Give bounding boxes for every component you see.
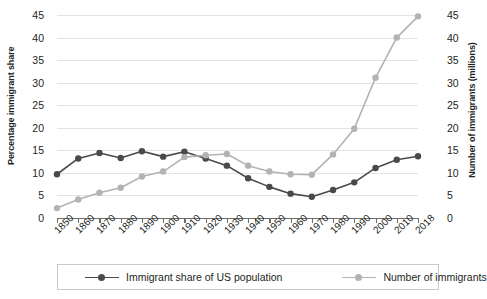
gridline bbox=[57, 173, 418, 174]
gridline bbox=[57, 150, 418, 151]
y-axis-right-tick-label: 5 bbox=[447, 190, 477, 200]
gridline bbox=[57, 15, 418, 16]
legend-entry-number-of-immigrants: Number of immigrants bbox=[342, 271, 486, 283]
gridline bbox=[57, 195, 418, 196]
legend-entry-immigrant-share: Immigrant share of US population bbox=[85, 271, 282, 283]
y-axis-left-tick-label: 35 bbox=[14, 55, 44, 65]
legend-label-number-of-immigrants: Number of immigrants bbox=[383, 271, 486, 283]
gridline bbox=[57, 83, 418, 84]
y-axis-left-tick-label: 45 bbox=[14, 10, 44, 20]
y-axis-right-tick-label: 40 bbox=[447, 33, 477, 43]
y-axis-left-tick-label: 15 bbox=[14, 145, 44, 155]
y-axis-left-tick-label: 40 bbox=[14, 33, 44, 43]
y-axis-right-tick-label: 20 bbox=[447, 123, 477, 133]
y-axis-left-tick-label: 5 bbox=[14, 190, 44, 200]
y-axis-left-tick-label: 10 bbox=[14, 168, 44, 178]
x-axis-tick-label: 1850 bbox=[52, 212, 76, 236]
y-axis-left-tick-label: 25 bbox=[14, 100, 44, 110]
plot-area bbox=[57, 15, 418, 218]
legend-swatch-number-of-immigrants bbox=[342, 272, 376, 282]
gridline bbox=[57, 60, 418, 61]
gridline bbox=[57, 38, 418, 39]
y-axis-right-tick-label: 15 bbox=[447, 145, 477, 155]
y-axis-right-tick-label: 35 bbox=[447, 55, 477, 65]
y-axis-right-tick-label: 45 bbox=[447, 10, 477, 20]
legend-dot-icon bbox=[98, 274, 105, 281]
y-axis-left-tick-label: 0 bbox=[14, 213, 44, 223]
legend-dot-icon bbox=[355, 274, 362, 281]
y-axis-right-tick-label: 30 bbox=[447, 78, 477, 88]
legend-label-immigrant-share: Immigrant share of US population bbox=[126, 271, 282, 283]
gridline bbox=[57, 128, 418, 129]
y-axis-left-tick-label: 30 bbox=[14, 78, 44, 88]
y-axis-right-tick-label: 10 bbox=[447, 168, 477, 178]
y-axis-right-tick-label: 0 bbox=[447, 213, 477, 223]
y-axis-left-tick-label: 20 bbox=[14, 123, 44, 133]
chart-legend: Immigrant share of US population Number … bbox=[57, 264, 439, 290]
gridline bbox=[57, 105, 418, 106]
y-axis-right-tick-label: 25 bbox=[447, 100, 477, 110]
legend-swatch-immigrant-share bbox=[85, 272, 119, 282]
